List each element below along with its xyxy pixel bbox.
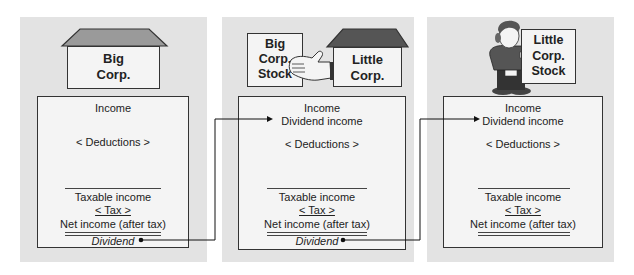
dividend-flow-arrows <box>0 0 634 275</box>
